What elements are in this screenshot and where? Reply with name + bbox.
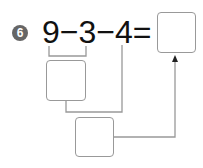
- final-answer-box[interactable]: [157, 12, 196, 53]
- step1-answer-box[interactable]: [46, 60, 86, 101]
- bracket-9-3: [49, 46, 86, 56]
- step2-answer-box[interactable]: [75, 117, 114, 157]
- connector-step2-to-answer: [114, 60, 175, 137]
- arrow-up-icon: [172, 55, 178, 62]
